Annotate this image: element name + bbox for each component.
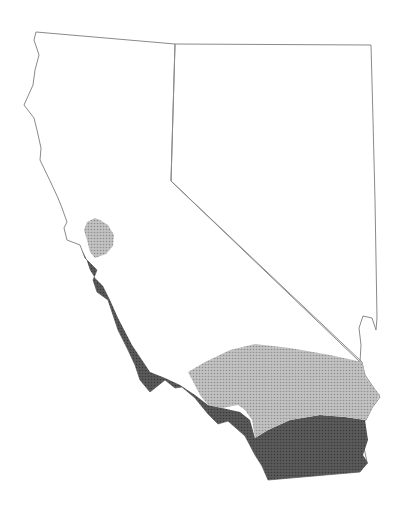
ca-nv-map (0, 0, 403, 507)
map-container (0, 0, 403, 507)
nevada-outline (171, 44, 377, 362)
light-shaded-region-bay (84, 218, 114, 258)
